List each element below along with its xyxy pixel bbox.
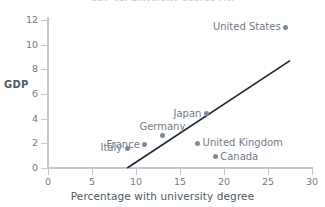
- data-point-label: Japan: [174, 109, 202, 119]
- data-point-label: France: [107, 140, 140, 150]
- scatter-chart: GDP vs. university degree (%) GDP Percen…: [0, 0, 325, 207]
- data-point-label: Canada: [220, 152, 258, 162]
- data-point-label: United Kingdom: [203, 138, 283, 148]
- data-point-label: Germany: [139, 122, 185, 132]
- data-point[interactable]: [195, 141, 200, 146]
- data-point[interactable]: [283, 25, 288, 30]
- data-point-label: United States: [213, 22, 281, 32]
